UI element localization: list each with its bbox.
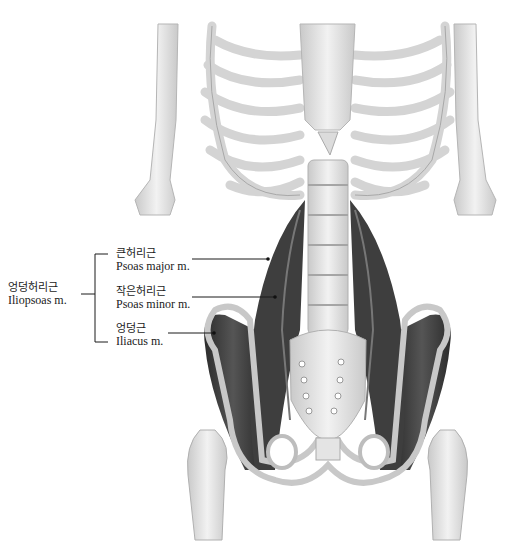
anatomy-illustration [0,0,525,558]
right-humerus [454,24,496,215]
label-iliopsoas-english: Iliopsoas m. [8,294,67,307]
label-iliacus: 엉덩근 Iliacus m. [116,322,163,348]
left-femur [188,430,228,540]
label-bracket [81,254,108,342]
label-psoas-minor-english: Psoas minor m. [116,298,190,311]
left-humerus [135,24,178,215]
label-iliacus-english: Iliacus m. [116,335,163,348]
label-iliopsoas: 엉덩허리근 Iliopsoas m. [8,281,67,307]
right-femur [428,430,468,540]
xiphoid-process [318,132,338,155]
label-psoas-major: 큰허리근 Psoas major m. [116,247,190,273]
label-psoas-minor: 작은허리근 Psoas minor m. [116,285,190,311]
lumbar-spine [308,160,348,335]
label-psoas-major-english: Psoas major m. [116,260,190,273]
sternum [300,24,355,130]
